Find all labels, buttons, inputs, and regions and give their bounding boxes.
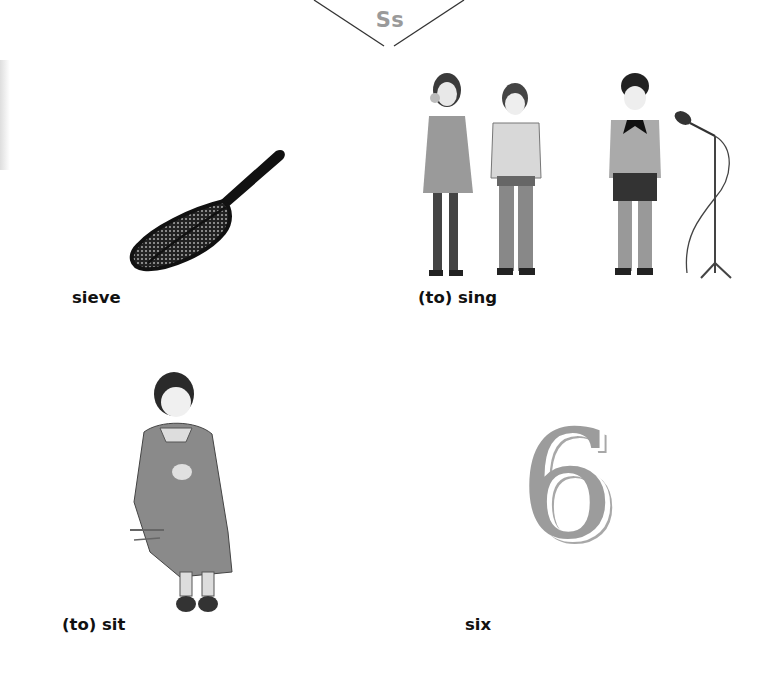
children-singing-illustration — [415, 68, 745, 283]
english-word: (to) sit — [62, 615, 125, 634]
letter-heading: Ss — [370, 8, 410, 32]
page-edge-shadow — [0, 60, 10, 170]
english-word: six — [465, 615, 491, 634]
english-word: (to) sing — [418, 288, 497, 307]
english-word: sieve — [72, 288, 121, 307]
number-six-illustration: 6 — [512, 405, 622, 565]
sieve-illustration — [128, 145, 288, 275]
girl-sitting-illustration — [120, 372, 240, 617]
